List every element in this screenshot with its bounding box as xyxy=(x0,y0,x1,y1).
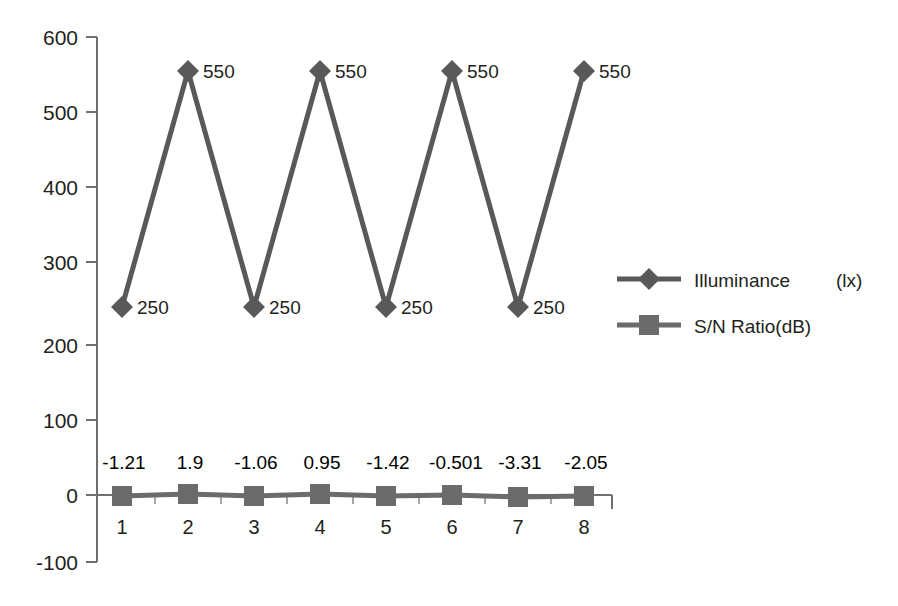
y-tick-600: 600 xyxy=(43,26,78,49)
x-tick-3: 3 xyxy=(248,516,259,538)
x-tick-7: 7 xyxy=(512,516,523,538)
illuminance-label-7: 250 xyxy=(533,297,565,318)
legend-label-snr: S/N Ratio(dB) xyxy=(694,316,811,337)
snr-label-4: 0.95 xyxy=(304,452,341,473)
snr-label-8: -2.05 xyxy=(564,452,607,473)
illuminance-label-3: 250 xyxy=(269,297,301,318)
x-tick-5: 5 xyxy=(380,516,391,538)
legend-unit-illuminance: (lx) xyxy=(836,270,862,291)
illuminance-label-6: 550 xyxy=(467,61,499,82)
x-tick-1: 1 xyxy=(116,516,127,538)
y-tick-100: 100 xyxy=(43,409,78,432)
line-chart: 600 500 400 300 200 100 0 -100 xyxy=(0,0,898,606)
y-tick-500: 500 xyxy=(43,101,78,124)
chart-container: 600 500 400 300 200 100 0 -100 xyxy=(0,0,898,606)
illuminance-label-8: 550 xyxy=(599,61,631,82)
square-marker-icon xyxy=(639,315,659,335)
x-tick-8: 8 xyxy=(578,516,589,538)
snr-label-6: -0.501 xyxy=(429,452,483,473)
legend-item-snr[interactable]: S/N Ratio(dB) xyxy=(617,315,811,337)
illuminance-label-2: 550 xyxy=(203,61,235,82)
snr-label-2: 1.9 xyxy=(177,452,203,473)
y-tick-200: 200 xyxy=(43,334,78,357)
illuminance-label-1: 250 xyxy=(137,297,169,318)
illuminance-label-4: 550 xyxy=(335,61,367,82)
y-tick-400: 400 xyxy=(43,176,78,199)
x-tick-2: 2 xyxy=(182,516,193,538)
y-tick-300: 300 xyxy=(43,251,78,274)
y-tick-0: 0 xyxy=(66,484,78,507)
legend-label-illuminance: Illuminance xyxy=(694,270,790,291)
snr-label-5: -1.42 xyxy=(366,452,409,473)
x-tick-4: 4 xyxy=(314,516,325,538)
snr-label-1: -1.21 xyxy=(102,452,145,473)
x-tick-6: 6 xyxy=(446,516,457,538)
snr-label-7: -3.31 xyxy=(498,452,541,473)
snr-label-3: -1.06 xyxy=(234,452,277,473)
y-tick-neg100: -100 xyxy=(36,551,78,574)
illuminance-label-5: 250 xyxy=(401,297,433,318)
